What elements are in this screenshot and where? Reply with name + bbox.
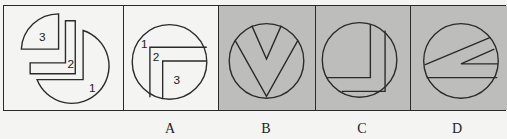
question-panel: 3 2 1 (4, 6, 124, 110)
option-b-label: B (256, 121, 276, 137)
piece-label: 3 (39, 30, 46, 43)
option-d-label: D (447, 121, 467, 137)
piece-label: 2 (153, 50, 160, 63)
option-d-figure (411, 6, 507, 110)
option-d-panel[interactable] (411, 6, 507, 110)
option-c-panel[interactable] (316, 6, 411, 110)
option-a-figure: 1 2 3 (124, 6, 218, 110)
option-c-figure (316, 6, 410, 110)
piece-label: 1 (141, 37, 148, 50)
figure-strip: 3 2 1 1 2 3 (3, 5, 506, 111)
piece-label: 1 (89, 81, 96, 94)
option-b-figure (219, 6, 315, 110)
exploded-circle-pieces: 3 2 1 (4, 6, 123, 110)
option-a-panel[interactable]: 1 2 3 (124, 6, 219, 110)
piece-label: 3 (173, 73, 180, 86)
option-c-label: C (352, 121, 372, 137)
piece-label: 2 (67, 57, 74, 70)
option-a-label: A (160, 121, 180, 137)
option-b-panel[interactable] (219, 6, 316, 110)
